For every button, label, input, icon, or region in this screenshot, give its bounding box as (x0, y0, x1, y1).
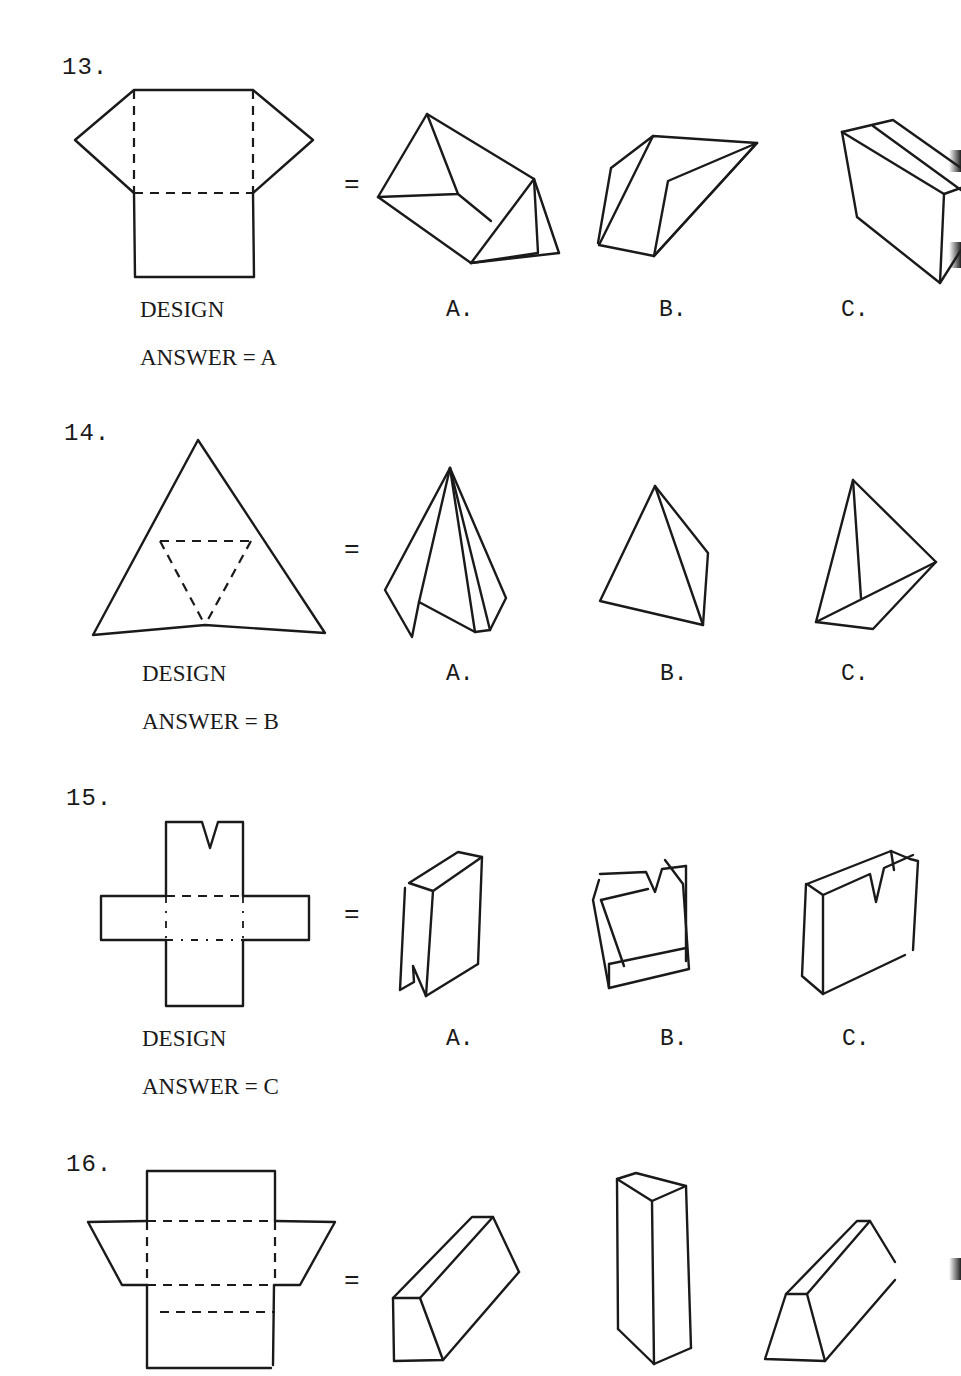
answer-label: ANSWER = A (140, 345, 277, 371)
option-figure-13a (378, 114, 559, 263)
problem-number: 16. (66, 1151, 112, 1178)
option-figure-15c (802, 851, 918, 994)
option-label-c: C. (842, 1026, 870, 1052)
design-figure-14 (93, 440, 325, 635)
design-label: DESIGN (140, 297, 224, 323)
design-label: DESIGN (142, 1026, 226, 1052)
option-label-a: A. (446, 297, 474, 323)
option-figure-14a (385, 468, 506, 637)
problem-number: 13. (62, 54, 108, 81)
option-figure-13c (842, 120, 961, 283)
option-figure-16c (765, 1221, 895, 1361)
option-figure-14b (600, 486, 708, 625)
option-label-b: B. (660, 661, 688, 687)
problem-number: 15. (66, 785, 112, 812)
equals-sign: = (344, 1266, 360, 1296)
equals-sign: = (344, 535, 360, 565)
design-figure-15 (101, 822, 309, 1006)
design-figure-16 (88, 1171, 335, 1368)
scan-edge-shadow (949, 150, 961, 172)
option-label-a: A. (446, 661, 474, 687)
option-label-b: B. (659, 297, 687, 323)
option-figure-15a (400, 852, 482, 996)
option-label-c: C. (841, 297, 869, 323)
design-figure-13 (75, 90, 313, 277)
option-figure-13b (598, 136, 757, 256)
option-label-c: C. (841, 661, 869, 687)
equals-sign: = (344, 170, 360, 200)
option-figure-14c (816, 480, 936, 629)
option-label-b: B. (660, 1026, 688, 1052)
equals-sign: = (344, 900, 360, 930)
problem-number: 14. (64, 420, 110, 447)
scan-edge-shadow (949, 1258, 961, 1280)
answer-label: ANSWER = B (142, 709, 279, 735)
figures-layer (0, 0, 961, 1376)
option-figure-16b (617, 1173, 691, 1364)
option-label-a: A. (446, 1026, 474, 1052)
design-label: DESIGN (142, 661, 226, 687)
option-figure-16a (393, 1217, 519, 1361)
answer-label: ANSWER = C (142, 1074, 279, 1100)
option-figure-15b (593, 860, 689, 988)
scan-edge-shadow (949, 242, 961, 268)
